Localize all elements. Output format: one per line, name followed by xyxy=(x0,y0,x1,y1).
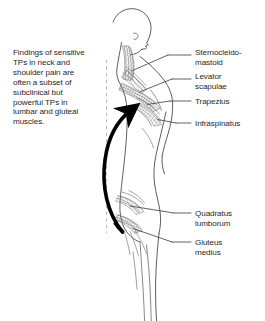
leader-line-gluteus-medius-hook xyxy=(133,229,172,243)
label-gluteus-medius: Gluteus medius xyxy=(195,238,265,257)
label-levator-scapulae: Levator scapulae xyxy=(195,72,265,91)
label-quadratus-lumborum: Quadratus lumborum xyxy=(195,209,265,228)
label-trapezius: Trapezius xyxy=(195,97,265,107)
caption-text: Findings of sensitive TPs in neck and sh… xyxy=(13,48,113,127)
muscle-gluteus-medius xyxy=(114,215,146,257)
anatomy-figure: Findings of sensitive TPs in neck and sh… xyxy=(0,0,265,321)
leg-outlines xyxy=(133,242,151,321)
head-profile-outline xyxy=(113,9,151,55)
label-infraspinatus: Infraspinatus xyxy=(195,119,265,129)
label-sternocleidomastoid: Sternocleido- mastoid xyxy=(195,48,265,67)
leader-line-sternocleidomastoid-hook xyxy=(133,55,169,71)
